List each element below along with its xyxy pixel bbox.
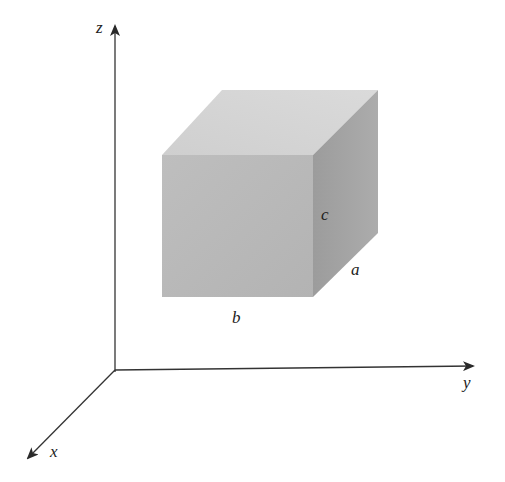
- box-front-face: [162, 155, 313, 297]
- coordinate-diagram: z y x c a b: [0, 0, 505, 482]
- x-axis: [28, 370, 115, 458]
- edge-label-b: b: [232, 308, 241, 327]
- z-axis-label: z: [95, 18, 103, 37]
- y-axis: [115, 366, 473, 370]
- x-axis-label: x: [49, 442, 58, 461]
- rectangular-box: [162, 90, 378, 297]
- edge-label-c: c: [321, 205, 329, 224]
- y-axis-label: y: [461, 373, 471, 392]
- edge-label-a: a: [351, 260, 360, 279]
